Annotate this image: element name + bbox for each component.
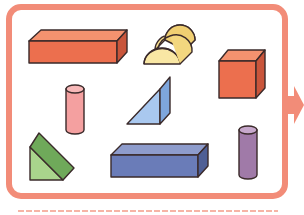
solid-cylinder-purple (239, 126, 257, 179)
solid-cuboid-long (29, 30, 127, 63)
geometric-solids-figure (0, 0, 304, 215)
solid-cuboid-blue (111, 144, 208, 177)
solid-cube (219, 50, 265, 98)
solid-cylinder-pink (66, 85, 84, 134)
